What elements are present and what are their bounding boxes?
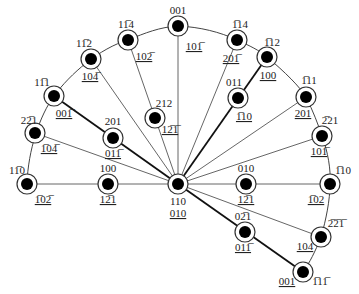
- zone-axis-label: 101̅: [186, 40, 206, 52]
- node-dot: [107, 132, 119, 144]
- zone-axis-label: 001: [279, 275, 296, 287]
- pole-node: 1̅11̅001: [279, 262, 331, 287]
- zone-axis-label: 1̅10: [236, 110, 253, 122]
- zone-axis-label: 1̅02: [308, 193, 325, 205]
- pole-label: 1̅10: [335, 164, 352, 176]
- node-dot: [232, 92, 244, 104]
- zone-axis-label: 201: [295, 107, 312, 119]
- pole-node: 1̅14201̅: [223, 18, 249, 64]
- node-dot: [122, 34, 134, 46]
- node-dot: [261, 51, 273, 63]
- node-dot: [316, 130, 328, 142]
- pole-node: 02̅1011̅: [235, 210, 255, 253]
- pole-label: 001: [170, 4, 187, 16]
- pole-node: 01012̅1: [236, 162, 256, 205]
- pole-node: 2̅21101̅: [311, 114, 339, 157]
- node-dot: [297, 266, 309, 278]
- pole-label: 11̅2: [76, 37, 92, 49]
- pole-label: 22̅1: [21, 114, 38, 126]
- pole-label: 011: [226, 76, 242, 88]
- pole-label: 212: [156, 97, 173, 109]
- center-label-top: 110: [170, 195, 187, 207]
- zone-axis-label: 011̅: [235, 241, 254, 253]
- pole-node: 2̅2̅1̅104: [297, 217, 348, 252]
- pole-node: 11̅1001̅: [34, 76, 75, 119]
- center-dot: [172, 178, 184, 190]
- pole-node: 11̅2104̅: [76, 37, 101, 82]
- node-dot: [239, 226, 251, 238]
- node-dot: [324, 178, 336, 190]
- node-dot: [85, 53, 97, 65]
- node-dot: [300, 91, 312, 103]
- pole-label: 1̅11: [301, 74, 317, 86]
- pole-label: 2̅21: [322, 114, 339, 126]
- pole-label: 11̅0: [9, 164, 26, 176]
- pole-node: 1̅12100: [257, 36, 280, 81]
- pole-label: 100: [100, 162, 117, 174]
- node-dot: [315, 231, 327, 243]
- outer-arc: [27, 26, 330, 272]
- pole-label: 11̅4: [118, 18, 135, 30]
- zone-axis-label: 1̅02̅: [35, 193, 55, 205]
- pole-label: 010: [238, 162, 255, 174]
- pole-label: 02̅1: [235, 210, 252, 222]
- node-dot: [48, 90, 60, 102]
- center-label-bottom: 010: [170, 207, 187, 219]
- node-dot: [172, 20, 184, 32]
- zone-axis-label: 12̅1: [100, 193, 117, 205]
- zone-arc: [27, 26, 330, 272]
- node-dot: [240, 178, 252, 190]
- pole-node: 10012̅1: [98, 162, 118, 205]
- zone-axis-label: 104: [297, 240, 314, 252]
- pole-nodes: 001101̅1̅14201̅11̅4102̅1̅1210011̅2104̅01…: [9, 4, 352, 287]
- zone-axis-label: 100: [260, 69, 277, 81]
- zone-axis-label: 12̅1: [238, 193, 255, 205]
- zone-axis-label: 011̅: [105, 147, 124, 159]
- spokes: [27, 26, 330, 272]
- pole-label: 11̅1: [34, 76, 50, 88]
- zone-axis-label: 201̅: [223, 52, 243, 64]
- node-dot: [102, 178, 114, 190]
- pole-label: 201: [105, 115, 122, 127]
- pole-node: 11̅01̅02̅: [9, 164, 54, 205]
- pole-node: 11̅4102̅: [118, 18, 155, 62]
- node-dot: [21, 178, 33, 190]
- pole-label: 2̅2̅1̅: [328, 217, 348, 229]
- zone-axis-label: 102̅: [136, 50, 156, 62]
- node-dot: [149, 112, 161, 124]
- pole-label: 1̅12: [264, 36, 280, 48]
- node-dot: [231, 34, 243, 46]
- pole-label: 1̅11̅: [312, 275, 331, 287]
- center-pole: 110 010: [168, 174, 188, 219]
- zone-axis-label: 1̅04̅: [41, 142, 61, 154]
- node-dot: [29, 127, 41, 139]
- zone-axis-label: 104̅: [82, 70, 102, 82]
- pole-node: 201011̅: [103, 115, 124, 159]
- pole-label: 1̅14: [232, 18, 249, 30]
- zone-diagram: 001101̅1̅14201̅11̅4102̅1̅1210011̅2104̅01…: [0, 0, 359, 294]
- pole-node: 21212̅1̅: [145, 97, 181, 135]
